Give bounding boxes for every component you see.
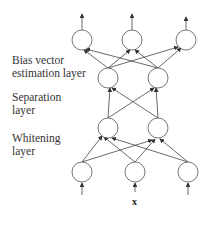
input-node [125,162,145,182]
input-x-label: x [132,196,137,207]
bias-layer-label-line1: Bias vector [12,54,86,67]
separation-layer-label: Separation layer [12,91,61,117]
separation-layer-label-line1: Separation [12,91,61,104]
output-node [176,30,196,50]
whitening-node [98,118,118,138]
input-node [178,162,198,182]
bias-layer-label: Bias vector estimation layer [12,54,86,80]
separation-node [148,68,168,88]
output-node [122,30,142,50]
input-node [72,162,92,182]
whitening-node [148,118,168,138]
separation-node [98,68,118,88]
separation-layer-label-line2: layer [12,104,61,117]
output-node [72,30,92,50]
whitening-layer-label: Whitening layer [12,132,61,158]
bias-layer-label-line2: estimation layer [12,67,86,80]
whitening-layer-label-line2: layer [12,145,61,158]
whitening-layer-label-line1: Whitening [12,132,61,145]
